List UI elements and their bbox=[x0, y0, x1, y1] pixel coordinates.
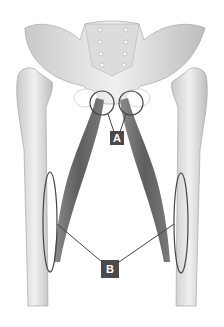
right-femur bbox=[172, 68, 208, 306]
label-a: A bbox=[110, 131, 124, 145]
left-femur bbox=[17, 68, 53, 306]
label-b: B bbox=[101, 260, 119, 278]
leader-line-a-left bbox=[108, 114, 114, 132]
left-adductor-muscle bbox=[54, 98, 104, 262]
right-adductor-muscle bbox=[120, 98, 170, 262]
